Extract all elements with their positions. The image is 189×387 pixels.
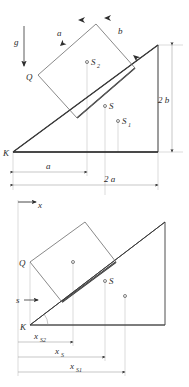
wedge-incline-lower bbox=[30, 222, 165, 325]
dimension-xs1-subscript: S1 bbox=[76, 367, 82, 373]
dimension-xs-subscript: S bbox=[61, 352, 64, 358]
lower-diagram: x s Q K S x S2 bbox=[16, 200, 165, 376]
vertex-k-label-lower: K bbox=[19, 322, 27, 332]
gravity-label: g bbox=[14, 37, 19, 47]
block-rectangle bbox=[38, 24, 135, 118]
point-s1-subscript: 1 bbox=[128, 122, 131, 128]
vertex-k-label: K bbox=[2, 148, 10, 158]
dimension-xs-label: x bbox=[54, 346, 59, 356]
dimension-xs2-label: x bbox=[33, 331, 38, 341]
figure-canvas: g K Q a b S 2 S S 1 2 b a 2 a bbox=[0, 0, 189, 387]
dimension-xs1-label: x bbox=[69, 361, 74, 371]
point-s2-subscript: 2 bbox=[97, 63, 100, 69]
axis-s-label: s bbox=[16, 295, 20, 305]
tick-arrow-b-left bbox=[104, 15, 111, 21]
point-s-label-lower: S bbox=[109, 276, 114, 286]
point-s-label: S bbox=[109, 101, 114, 111]
side-b-label: b bbox=[118, 26, 123, 36]
physics-figure: g K Q a b S 2 S S 1 2 b a 2 a bbox=[0, 0, 189, 387]
corner-q-label: Q bbox=[26, 72, 33, 82]
side-a-label: a bbox=[57, 28, 62, 38]
dimension-2b-label: 2 b bbox=[158, 95, 170, 105]
dimension-xs2-subscript: S2 bbox=[40, 337, 46, 343]
tick-arrow-b-right bbox=[131, 53, 140, 62]
tick-arrow-a-right bbox=[78, 17, 85, 23]
upper-diagram: g K Q a b S 2 S S 1 2 b a 2 a bbox=[2, 15, 183, 195]
tick-arrow-a-left bbox=[58, 40, 66, 48]
angle-arc-k bbox=[44, 314, 48, 325]
dimension-a-label: a bbox=[46, 161, 51, 171]
point-s1-label: S bbox=[122, 116, 127, 126]
dimension-2a-label: 2 a bbox=[104, 174, 116, 184]
point-s2-label: S bbox=[91, 57, 96, 67]
axis-x-label: x bbox=[37, 200, 42, 210]
corner-q-label-lower: Q bbox=[19, 258, 26, 268]
